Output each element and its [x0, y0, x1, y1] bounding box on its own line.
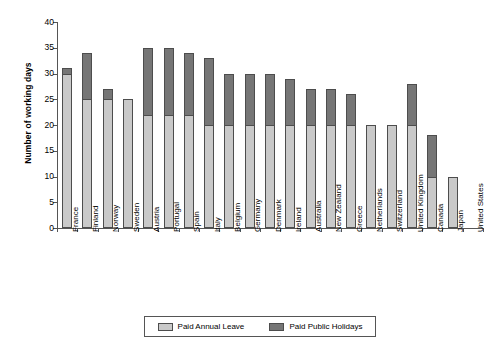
x-axis-label-switzerland: Switzerland — [395, 190, 404, 232]
x-axis-label-belgium: Belgium — [233, 203, 242, 232]
y-tick-label: 5 — [49, 197, 54, 207]
x-axis-label-canada: Canada — [436, 204, 445, 232]
x-axis-label-united-kingdom: United Kingdom — [416, 174, 425, 232]
stacked-bar[interactable] — [285, 79, 295, 228]
bar-segment-public-holidays[interactable] — [326, 89, 336, 125]
bar-segment-public-holidays[interactable] — [82, 53, 92, 99]
bar-group[interactable] — [300, 22, 320, 228]
y-axis-title: Number of working days — [23, 23, 33, 203]
bar-group[interactable] — [442, 22, 462, 228]
bar-segment-public-holidays[interactable] — [103, 89, 113, 99]
stacked-bar[interactable] — [62, 68, 72, 228]
x-axis-labels: FranceFinlandNorwaySwedenAustriaPortugal… — [57, 232, 483, 312]
y-tick-label: 30 — [45, 68, 54, 78]
bar-group[interactable] — [219, 22, 239, 228]
legend-swatch-icon — [269, 323, 284, 331]
bar-group[interactable] — [422, 22, 442, 228]
bar-segment-public-holidays[interactable] — [204, 58, 214, 125]
bar-segment-annual-leave[interactable] — [62, 74, 72, 229]
legend-swatch-icon — [158, 323, 173, 331]
x-axis-label-japan: Japan — [456, 210, 465, 232]
bar-segment-public-holidays[interactable] — [427, 135, 437, 176]
x-axis-label-portugal: Portugal — [172, 202, 181, 232]
legend-item-public-holidays[interactable]: Paid Public Holidays — [269, 322, 362, 331]
legend-item-annual-leave[interactable]: Paid Annual Leave — [158, 322, 245, 331]
bar-group[interactable] — [240, 22, 260, 228]
y-tick-label: 25 — [45, 94, 54, 104]
x-axis-label-spain: Spain — [192, 211, 201, 232]
bar-segment-public-holidays[interactable] — [224, 74, 234, 126]
x-axis-label-greece: Greece — [355, 205, 364, 232]
x-axis-label-sweden: Sweden — [132, 203, 141, 232]
x-axis-label-denmark: Denmark — [274, 199, 283, 232]
bar-group[interactable] — [280, 22, 300, 228]
bar-group[interactable] — [77, 22, 97, 228]
bar-segment-public-holidays[interactable] — [407, 84, 417, 125]
y-tick-label: 0 — [49, 223, 54, 233]
stacked-bar[interactable] — [143, 48, 153, 228]
x-axis-label-austria: Austria — [152, 207, 161, 232]
bar-group[interactable] — [260, 22, 280, 228]
bar-group[interactable] — [179, 22, 199, 228]
x-axis-label-norway: Norway — [111, 205, 120, 232]
x-axis-label-ireland: Ireland — [294, 207, 303, 232]
y-tick-label: 15 — [45, 145, 54, 155]
stacked-bar[interactable] — [204, 58, 214, 228]
bar-group[interactable] — [98, 22, 118, 228]
y-tick-label: 10 — [45, 171, 54, 181]
x-axis-label-germany: Germany — [253, 199, 262, 232]
x-axis-label-new-zealand: New Zealand — [334, 184, 343, 232]
working-days-chart: Number of working days 0510152025303540 … — [0, 0, 495, 352]
x-axis-label-netherlands: Netherlands — [375, 188, 384, 232]
x-axis-label-france: France — [71, 207, 80, 232]
x-axis-label-finland: Finland — [91, 205, 100, 232]
y-tick-label: 40 — [45, 17, 54, 27]
y-tick-label: 20 — [45, 120, 54, 130]
stacked-bar[interactable] — [82, 53, 92, 228]
bar-segment-public-holidays[interactable] — [164, 48, 174, 115]
chart-legend: Paid Annual LeavePaid Public Holidays — [144, 316, 376, 337]
bar-group[interactable] — [138, 22, 158, 228]
bar-segment-public-holidays[interactable] — [143, 48, 153, 115]
bar-group[interactable] — [118, 22, 138, 228]
bar-segment-public-holidays[interactable] — [245, 74, 255, 126]
bar-segment-annual-leave[interactable] — [204, 125, 214, 228]
bar-segment-public-holidays[interactable] — [184, 53, 194, 115]
x-axis-label-united-states: United States — [476, 183, 485, 232]
x-axis-label-italy: Italy — [213, 217, 222, 232]
bar-segment-public-holidays[interactable] — [265, 74, 275, 126]
legend-label: Paid Annual Leave — [178, 322, 245, 331]
stacked-bar[interactable] — [184, 53, 194, 228]
bar-segment-public-holidays[interactable] — [306, 89, 316, 125]
legend-label: Paid Public Holidays — [289, 322, 362, 331]
y-tick-label: 35 — [45, 42, 54, 52]
bar-group[interactable] — [158, 22, 178, 228]
bar-group[interactable] — [57, 22, 77, 228]
bar-segment-public-holidays[interactable] — [346, 94, 356, 125]
bar-group[interactable] — [199, 22, 219, 228]
bar-group[interactable] — [341, 22, 361, 228]
bar-segment-public-holidays[interactable] — [285, 79, 295, 125]
x-axis-label-australia: Australia — [314, 200, 323, 232]
